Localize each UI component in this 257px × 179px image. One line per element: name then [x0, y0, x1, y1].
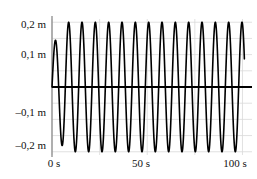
y-tick-label-3: –0,2 m — [0, 140, 46, 151]
x-tick-label-0: 0 s — [40, 158, 68, 169]
oscillation-chart-figure: 0,2 m 0,1 m –0,1 m –0,2 m 0 s 50 s 100 s — [0, 0, 257, 179]
y-tick-label-0: 0,2 m — [0, 19, 46, 30]
y-tick-label-2: –0,1 m — [0, 107, 46, 118]
y-tick-label-1: 0,1 m — [0, 49, 46, 60]
x-tick-label-1: 50 s — [125, 158, 157, 169]
x-tick-label-2: 100 s — [215, 158, 255, 169]
